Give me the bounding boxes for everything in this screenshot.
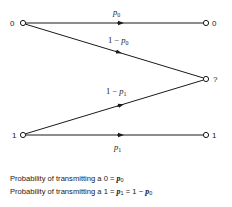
arrow-icon [115, 51, 119, 52]
caption-line-1: Probability of transmitting a 0 = p0 [10, 174, 124, 185]
output-label-1: 1 [212, 131, 217, 140]
input-label-1: 1 [12, 131, 17, 140]
caption-text: Probability of transmitting a 0 = [10, 174, 117, 183]
edge-label-1-minus-p1: 1 − p1 [106, 86, 127, 97]
arrow-icon [117, 105, 121, 106]
input-node-0 [20, 20, 25, 25]
input-node-1 [20, 132, 25, 137]
caption-text: = 1 − [124, 187, 146, 196]
output-node-1 [203, 132, 208, 137]
caption-text: Probability of transmitting a 1 = [10, 187, 117, 196]
channel-diagram: 0 1 0 ? 1 p0 1 − p0 1 − p1 p1 [0, 0, 232, 170]
caption-sub: 0 [121, 177, 124, 183]
output-label-erasure: ? [213, 75, 218, 84]
output-label-0: 0 [212, 19, 217, 28]
output-node-erasure [203, 76, 208, 81]
edge-0-to-erasure [26, 24, 204, 78]
edge-label-p0: p0 [112, 7, 120, 18]
caption-sub: 0 [149, 190, 152, 196]
edge-label-p1: p1 [113, 142, 121, 153]
input-label-0: 0 [10, 19, 15, 28]
edge-label-1-minus-p0: 1 − p0 [108, 35, 129, 46]
caption-line-2: Probability of transmitting a 1 = p1 = 1… [10, 187, 152, 198]
output-node-0 [203, 20, 208, 25]
